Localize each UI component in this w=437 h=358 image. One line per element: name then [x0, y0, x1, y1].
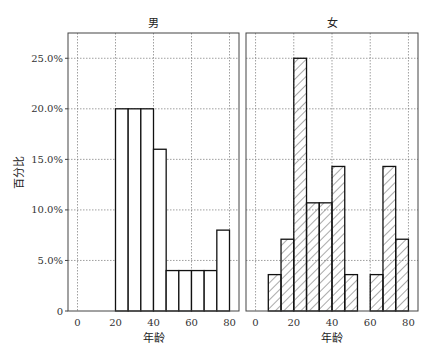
- x-tick-label: 20: [109, 317, 122, 328]
- x-axis-label: 年龄: [321, 331, 343, 345]
- y-tick-label: 0: [57, 306, 63, 317]
- histogram-bar: [307, 203, 320, 311]
- x-tick-label: 80: [402, 317, 415, 328]
- histogram-bar: [154, 149, 167, 311]
- female-bars: [268, 58, 408, 311]
- female-panel-title: 女: [327, 16, 338, 30]
- histogram-bar: [396, 239, 409, 311]
- histogram-bar: [383, 166, 396, 311]
- x-tick-label: 0: [252, 317, 258, 328]
- x-tick-label: 60: [364, 317, 377, 328]
- histogram-bar: [204, 271, 217, 311]
- x-tick-label: 20: [287, 317, 300, 328]
- histogram-bar: [345, 275, 358, 311]
- x-tick-label: 60: [185, 317, 198, 328]
- x-tick-label: 40: [326, 317, 339, 328]
- histogram-bar: [179, 271, 192, 311]
- x-tick-label: 80: [223, 317, 236, 328]
- y-tick-label: 25.0%: [31, 53, 63, 64]
- male-panel: 020406080年龄男05.0%10.0%15.0%20.0%25.0%百分比: [13, 17, 239, 345]
- y-tick-label: 20.0%: [31, 103, 63, 114]
- histogram-bar: [166, 271, 179, 311]
- histogram-bar: [281, 239, 294, 311]
- histogram-bar: [294, 58, 307, 311]
- histogram-bar: [128, 109, 141, 311]
- y-tick-label: 15.0%: [31, 154, 63, 165]
- histogram-bar: [217, 230, 230, 311]
- x-axis-label: 年龄: [143, 331, 165, 345]
- x-tick-label: 40: [147, 317, 160, 328]
- histogram-bar: [192, 271, 205, 311]
- y-axis-label: 百分比: [13, 156, 26, 189]
- histogram-bar: [319, 203, 332, 311]
- male-panel-title: 男: [148, 17, 159, 30]
- histogram-bar: [332, 166, 345, 311]
- histogram-bar: [116, 109, 129, 311]
- y-tick-label: 5.0%: [38, 255, 63, 266]
- histogram-bar: [370, 275, 383, 311]
- x-tick-label: 0: [74, 317, 80, 328]
- histogram-bar: [268, 275, 281, 311]
- histogram-figure: 020406080年龄男05.0%10.0%15.0%20.0%25.0%百分比…: [0, 0, 437, 358]
- histogram-bar: [141, 109, 154, 311]
- y-tick-label: 10.0%: [31, 204, 63, 215]
- female-panel: 020406080年龄女: [246, 16, 418, 345]
